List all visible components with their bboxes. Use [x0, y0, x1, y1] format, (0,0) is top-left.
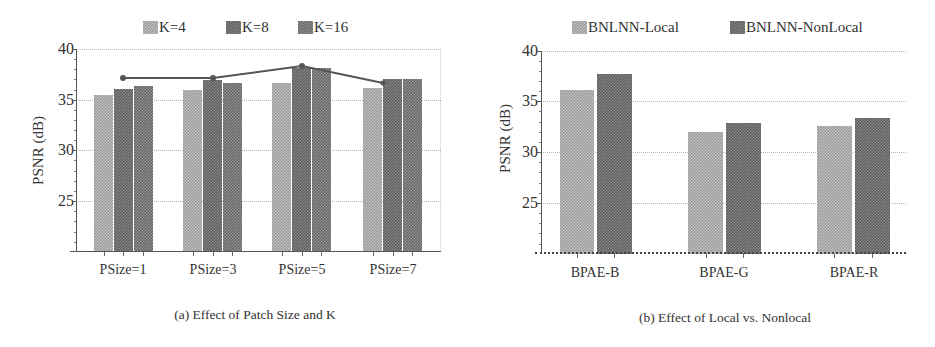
- legend-item-nonlocal: BNLNN-NonLocal: [730, 19, 863, 36]
- plot-area-b: [541, 51, 906, 254]
- plot-area-a: [76, 49, 441, 252]
- x-axis: [70, 251, 441, 252]
- caption-b: (b) Effect of Local vs. Nonlocal: [600, 310, 850, 326]
- gridline-40: [541, 51, 906, 52]
- line-marker: [381, 81, 386, 86]
- legend-label-nonlocal: BNLNN-NonLocal: [746, 19, 863, 36]
- line-marker: [299, 63, 305, 69]
- legend-swatch-k16: [298, 21, 313, 34]
- legend-swatch-k8: [226, 21, 241, 34]
- x-label-bpaeg: BPAE-G: [684, 265, 764, 281]
- y-tick-label-30: 30: [508, 143, 538, 161]
- legend-swatch-k4: [143, 21, 158, 34]
- y-tick-label-30: 30: [44, 141, 74, 159]
- y-axis: [541, 51, 542, 254]
- bar-bpaeb-nonlocal: [597, 74, 632, 254]
- caption-a: (a) Effect of Patch Size and K: [130, 307, 380, 323]
- bar-bpaeg-nonlocal: [726, 123, 761, 254]
- y-tick-label-25: 25: [508, 194, 538, 212]
- legend-item-k16: K=16: [298, 19, 348, 36]
- line-marker: [210, 75, 216, 81]
- x-label-psize7: PSize=7: [353, 262, 433, 278]
- legend-item-k8: K=8: [226, 19, 269, 36]
- legend-swatch-local: [572, 21, 587, 34]
- legend-label-k4: K=4: [159, 19, 186, 36]
- y-tick-label-35: 35: [508, 92, 538, 110]
- x-label-bpaer: BPAE-R: [814, 265, 894, 281]
- y-tick-label-25: 25: [44, 192, 74, 210]
- y-tick-label-40: 40: [508, 42, 538, 60]
- legend-item-local: BNLNN-Local: [572, 19, 679, 36]
- x-axis: [535, 252, 906, 254]
- x-label-psize5: PSize=5: [262, 262, 342, 278]
- y-tick-label-40: 40: [44, 40, 74, 58]
- x-label-psize1: PSize=1: [83, 262, 163, 278]
- legend-label-k8: K=8: [242, 19, 269, 36]
- bar-bpaer-nonlocal: [855, 118, 890, 254]
- legend-label-k16: K=16: [314, 19, 348, 36]
- legend-label-local: BNLNN-Local: [588, 19, 679, 36]
- line-marker: [120, 75, 126, 81]
- bar-bpaeb-local: [560, 90, 594, 254]
- legend-swatch-nonlocal: [730, 21, 745, 34]
- x-label-psize3: PSize=3: [173, 262, 253, 278]
- y-axis: [76, 49, 77, 252]
- y-tick-label-35: 35: [44, 91, 74, 109]
- x-label-bpaeb: BPAE-B: [555, 265, 635, 281]
- gridline-35: [541, 101, 906, 102]
- bar-bpaeg-local: [688, 132, 723, 254]
- y-axis-title: PSNR (dB): [497, 99, 514, 179]
- legend-item-k4: K=4: [143, 19, 186, 36]
- overlay-line: [76, 49, 441, 252]
- bar-bpaer-local: [817, 126, 852, 254]
